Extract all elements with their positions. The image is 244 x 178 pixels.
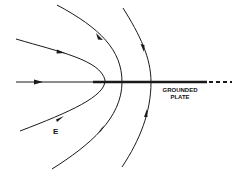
- arrow-icon: [57, 50, 66, 54]
- plate-label-line1: GROUNDED: [162, 87, 198, 93]
- field-diagram: E GROUNDED PLATE: [0, 0, 244, 178]
- arrow-icon: [34, 80, 43, 85]
- field-line-outer: [122, 8, 151, 167]
- plate-label-line2: PLATE: [170, 94, 189, 100]
- arrow-icon: [144, 109, 148, 117]
- arrow-icon: [141, 44, 145, 52]
- arrow-icon: [98, 125, 104, 133]
- diagram-svg: E GROUNDED PLATE: [0, 0, 244, 178]
- axis-field-line: [16, 80, 95, 85]
- arrow-icon: [56, 116, 64, 122]
- field-line-middle: [52, 5, 122, 169]
- field-line-inner: [16, 39, 105, 131]
- field-label: E: [53, 127, 59, 136]
